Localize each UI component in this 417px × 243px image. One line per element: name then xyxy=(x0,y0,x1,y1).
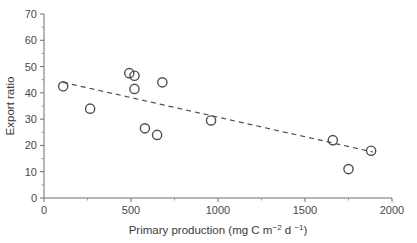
data-point xyxy=(206,116,215,125)
data-point xyxy=(344,164,353,173)
data-point xyxy=(130,84,139,93)
y-tick-label-70: 70 xyxy=(25,8,37,20)
x-tick-label-1500: 1500 xyxy=(293,204,317,216)
y-tick-label-0: 0 xyxy=(31,192,37,204)
data-point-group xyxy=(59,69,376,174)
y-axis-title: Export ratio xyxy=(4,77,16,136)
scatter-plot-figure: 010203040506070 0500100015002000 Export … xyxy=(0,0,417,243)
y-axis-tick-labels: 010203040506070 xyxy=(25,8,37,204)
data-point xyxy=(328,136,337,145)
x-tick-label-500: 500 xyxy=(122,204,140,216)
y-tick-label-30: 30 xyxy=(25,113,37,125)
x-axis-tick-labels: 0500100015002000 xyxy=(41,204,404,216)
x-axis-title-mid: d xyxy=(282,224,295,236)
y-tick-label-40: 40 xyxy=(25,87,37,99)
y-tick-label-20: 20 xyxy=(25,139,37,151)
y-tick-label-10: 10 xyxy=(25,166,37,178)
x-axis-title-main: Primary production (mg C m xyxy=(129,224,273,236)
x-tick-label-1000: 1000 xyxy=(206,204,230,216)
trend-line xyxy=(63,82,373,152)
plot-canvas: 010203040506070 0500100015002000 Export … xyxy=(0,0,417,243)
x-axis-title: Primary production (mg C m−2 d −1) xyxy=(129,223,308,236)
x-axis-title-tail: ) xyxy=(304,224,308,236)
data-point xyxy=(59,82,68,91)
data-point xyxy=(86,104,95,113)
y-tick-label-60: 60 xyxy=(25,34,37,46)
data-point xyxy=(140,124,149,133)
x-axis-ticks xyxy=(44,198,392,202)
data-point xyxy=(153,130,162,139)
data-point xyxy=(158,78,167,87)
data-point xyxy=(367,146,376,155)
x-tick-label-0: 0 xyxy=(41,204,47,216)
y-tick-label-50: 50 xyxy=(25,61,37,73)
x-tick-label-2000: 2000 xyxy=(380,204,404,216)
